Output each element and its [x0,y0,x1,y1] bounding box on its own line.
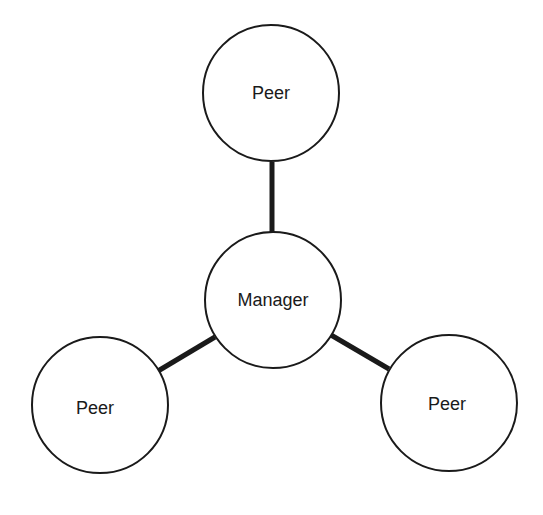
node-manager: Manager [205,232,341,368]
node-peer-left: Peer [32,337,168,473]
edge-manager-peer-left [158,337,215,371]
node-peer-top: Peer [203,25,339,161]
node-label: Peer [428,394,466,414]
node-label: Peer [252,83,290,103]
node-peer-right: Peer [381,335,517,471]
node-label: Peer [76,398,114,418]
edge-manager-peer-right [331,335,389,369]
diagram-canvas: Peer Manager Peer Peer [0,0,543,515]
node-label: Manager [237,290,308,310]
